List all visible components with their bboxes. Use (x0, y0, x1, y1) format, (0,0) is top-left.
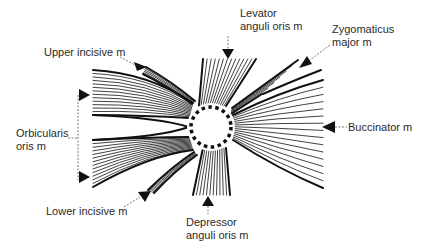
label-orbicularis-oris: Orbicularis oris m (16, 127, 69, 153)
buccinator-arrow-icon (322, 121, 335, 133)
levator-fiber (199, 59, 203, 106)
buccinator-fiber (233, 138, 323, 180)
lower-incisive-fiber (154, 155, 197, 193)
label-line-1: Zygomaticus (332, 23, 394, 36)
zygomaticus-leader (310, 45, 330, 60)
label-line-2: oris m (16, 140, 69, 153)
buccinator-fiber (233, 137, 323, 174)
orbicularis-lower-arrow-icon (79, 171, 90, 183)
muscle-diagram: Levator anguli oris m Zygomaticus major … (0, 0, 421, 252)
label-line-2: anguli oris m (240, 20, 302, 33)
label-lower-incisive: Lower incisive m (46, 205, 127, 218)
orbicularis-leader (68, 95, 78, 180)
zygomaticus-arrow-icon (299, 56, 312, 68)
orbicularis-upper-arrow-icon (79, 89, 90, 101)
depressor-fiber (222, 148, 223, 195)
buccinator-fiber (233, 133, 323, 159)
depressor-fiber (217, 148, 218, 195)
label-depressor-anguli-oris: Depressor anguli oris m (186, 216, 248, 242)
depressor-arrow-icon (202, 196, 214, 206)
modiolus-area (187, 103, 235, 151)
label-line-1: Levator (240, 7, 302, 20)
label-line-2: major m (332, 36, 394, 49)
label-zygomaticus-major: Zygomaticus major m (332, 23, 394, 49)
levator-fiber (207, 59, 219, 106)
lower-incisive-arrow-icon (138, 191, 151, 202)
label-line-1: Orbicularis (16, 127, 69, 140)
buccinator-fiber (233, 123, 323, 125)
depressor-fiber (213, 148, 215, 195)
label-line-2: anguli oris m (186, 229, 248, 242)
buccinator-fiber (233, 116, 323, 123)
label-upper-incisive: Upper incisive m (44, 46, 125, 59)
levator-arrow-icon (222, 49, 234, 59)
label-buccinator: Buccinator m (348, 121, 412, 134)
label-levator-anguli-oris: Levator anguli oris m (240, 7, 302, 33)
label-line-1: Depressor (186, 216, 248, 229)
